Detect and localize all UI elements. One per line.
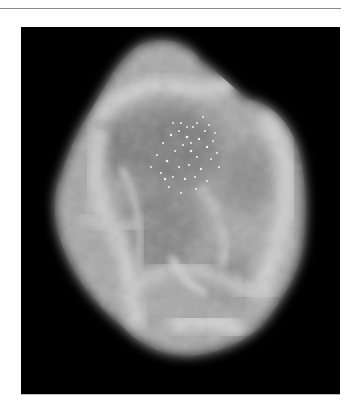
specimen-radiograph (21, 27, 340, 394)
top-divider-rule (0, 8, 341, 9)
radiograph-panel (21, 27, 340, 395)
